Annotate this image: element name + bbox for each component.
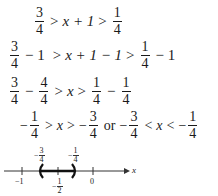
step-3: 34 − 44 > x > 14 − 14	[8, 76, 133, 107]
fraction: 14	[92, 76, 101, 107]
fraction: 34	[129, 110, 138, 141]
fraction: 14	[30, 110, 39, 141]
fraction: 34	[10, 40, 19, 71]
fraction: 34	[10, 76, 19, 107]
fraction: 34	[89, 110, 98, 141]
tick-label: −1	[15, 178, 24, 186]
endpoint-label-left: −34	[34, 147, 45, 164]
step-2: 34 − 1 > x + 1 − 1 > 14 − 1	[8, 40, 179, 71]
tick-label-half: −12	[52, 178, 63, 195]
fraction: 14	[122, 76, 131, 107]
endpoint-label-right: −14	[68, 147, 79, 164]
step-4: − 14 > x > − 34 or − 34 < x < − 14	[20, 110, 199, 141]
step-1: 34 > x + 1 > 14	[33, 6, 124, 37]
number-line: x −34 −14 −1 −12 0	[0, 145, 140, 196]
fraction: 34	[35, 6, 44, 37]
axis-label: x	[132, 165, 136, 175]
fraction: 14	[113, 6, 122, 37]
arrow-icon	[124, 168, 130, 174]
tick-label: 0	[90, 178, 94, 186]
fraction: 14	[141, 40, 150, 71]
fraction: 44	[39, 76, 48, 107]
fraction: 14	[188, 110, 197, 141]
